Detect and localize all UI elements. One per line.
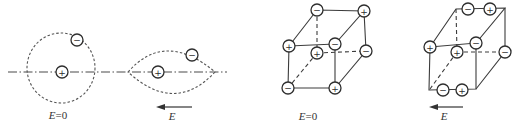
ion-front-bottom-left: − bbox=[282, 82, 294, 94]
svg-text:+: + bbox=[426, 43, 434, 53]
panel-atom-in-field: + − E bbox=[128, 49, 215, 122]
field-label: E bbox=[168, 110, 176, 122]
top-face-edges bbox=[289, 10, 364, 46]
electron-negative-charge: − bbox=[71, 34, 83, 46]
nucleus-positive-charge: + bbox=[152, 66, 164, 78]
svg-text:−: − bbox=[73, 35, 81, 45]
polarization-diagram: + − E=0 + − E + bbox=[0, 0, 520, 133]
field-label-zero: E=0 bbox=[298, 110, 318, 122]
ion-front-top-left: + bbox=[283, 40, 295, 52]
ion-front-top-right: − bbox=[470, 37, 482, 49]
ion-front-top-left: + bbox=[424, 41, 436, 53]
svg-text:+: + bbox=[486, 5, 494, 15]
svg-text:+: + bbox=[360, 7, 368, 17]
ion-front-bottom-edge-right: + bbox=[456, 84, 468, 96]
svg-text:+: + bbox=[58, 68, 66, 78]
svg-text:+: + bbox=[453, 48, 461, 58]
ion-front-top-right: − bbox=[329, 38, 341, 50]
ion-front-bottom-right: + bbox=[329, 82, 341, 94]
svg-text:−: − bbox=[313, 5, 321, 15]
ion-back-top-right: + bbox=[358, 5, 370, 17]
field-label: E bbox=[440, 110, 448, 122]
ion-front-bottom-edge-left: − bbox=[437, 84, 449, 96]
svg-text:−: − bbox=[331, 39, 339, 49]
svg-text:−: − bbox=[472, 38, 480, 48]
field-label-zero: E=0 bbox=[48, 109, 68, 121]
ion-back-top-edge-right: + bbox=[484, 3, 496, 15]
svg-text:−: − bbox=[464, 4, 472, 14]
panel-crystal-in-field: + − − + − + − + E bbox=[424, 3, 511, 122]
ion-back-bottom-left: + bbox=[311, 47, 323, 59]
svg-text:−: − bbox=[362, 46, 370, 56]
panel-crystal-no-field: + − + − − + − + E=0 bbox=[282, 4, 372, 122]
ion-back-bottom-right: − bbox=[360, 45, 372, 57]
ion-back-bottom-left: + bbox=[451, 46, 463, 58]
svg-text:+: + bbox=[313, 49, 321, 59]
svg-text:−: − bbox=[439, 85, 447, 95]
panel-atom-no-field: + − E=0 bbox=[8, 33, 227, 121]
svg-text:+: + bbox=[154, 68, 162, 78]
svg-text:−: − bbox=[284, 83, 292, 93]
svg-text:+: + bbox=[331, 84, 339, 94]
ion-back-top-left: − bbox=[311, 4, 323, 16]
svg-text:+: + bbox=[458, 86, 466, 96]
ion-back-top-edge-left: − bbox=[462, 3, 474, 15]
ion-back-bottom-right: − bbox=[499, 46, 511, 58]
nucleus-positive-charge: + bbox=[56, 66, 68, 78]
svg-text:+: + bbox=[285, 42, 293, 52]
svg-text:−: − bbox=[501, 47, 509, 57]
electron-negative-charge: − bbox=[186, 49, 198, 61]
hidden-edge bbox=[317, 51, 366, 53]
svg-text:−: − bbox=[188, 50, 196, 60]
